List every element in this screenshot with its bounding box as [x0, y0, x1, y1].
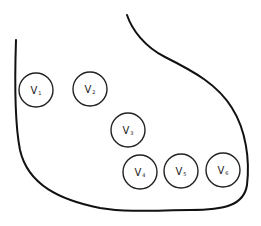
lead-subscript: 4 [142, 172, 145, 178]
lead-letter: V [84, 84, 91, 95]
lead-subscript: 1 [38, 90, 41, 96]
lead-subscript: 3 [130, 130, 133, 136]
lead-label-v3: V3 [111, 113, 145, 147]
lead-label-v6: V6 [206, 153, 240, 187]
lead-letter: V [175, 166, 182, 177]
lead-subscript: 5 [183, 171, 186, 177]
lead-letter: V [30, 85, 37, 96]
lead-letter: V [134, 167, 141, 178]
lead-letter: V [217, 165, 224, 176]
lead-label-v5: V5 [164, 154, 198, 188]
lead-subscript: 2 [92, 89, 95, 95]
lead-subscript: 6 [225, 170, 228, 176]
lead-letter: V [122, 125, 129, 136]
lead-label-v2: V2 [73, 72, 107, 106]
lead-label-v1: V1 [19, 73, 53, 107]
lead-label-v4: V4 [123, 155, 157, 189]
